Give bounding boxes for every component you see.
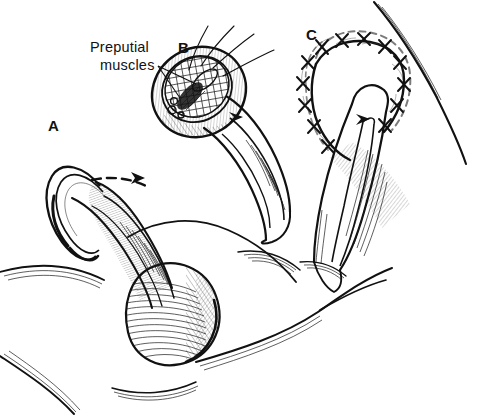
panel-letter-a: A xyxy=(48,117,59,134)
annotation-line-2: muscles xyxy=(100,57,155,73)
annotation-line-1: Preputial xyxy=(90,39,149,55)
medical-illustration-figure: A xyxy=(0,0,477,417)
illustration-canvas: A xyxy=(0,0,477,417)
figure-background xyxy=(0,0,477,417)
panel-letter-b: B xyxy=(178,39,189,56)
panel-letter-c: C xyxy=(306,26,317,43)
